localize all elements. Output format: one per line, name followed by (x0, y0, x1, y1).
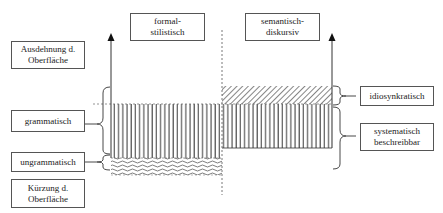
label-ungrammatisch: ungrammatisch (11, 152, 85, 172)
ungrammatical-band (111, 158, 222, 175)
label-grammatisch: grammatisch (11, 110, 85, 132)
label-systematisch: systematisch beschreibbar (360, 123, 434, 151)
label-kuerzung: Kürzung d. Oberfläche (11, 179, 85, 208)
label-idiosynkratisch: idiosynkratisch (360, 86, 434, 106)
idiosyncratic-band (222, 86, 332, 104)
brace-systematic (333, 107, 346, 169)
label-semantisch-diskursiv: semantisch- diskursiv (245, 13, 320, 41)
brace-ungrammatical (97, 155, 110, 170)
brace-grammatical (97, 87, 110, 154)
label-ausdehnung: Ausdehnung d. Oberfläche (11, 41, 85, 69)
grammatical-band (111, 104, 332, 158)
brace-idiosyncratic (333, 86, 346, 105)
label-formal-stilistisch: formal- stilistisch (130, 13, 205, 41)
